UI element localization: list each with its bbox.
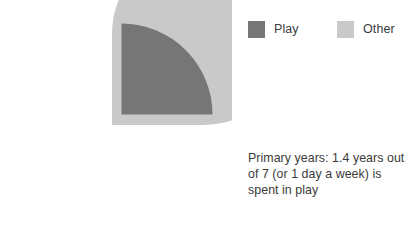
chart-canvas: Play Other Primary years: 1.4 years out … bbox=[0, 0, 414, 226]
chart-caption: Primary years: 1.4 years out of 7 (or 1 … bbox=[248, 150, 408, 199]
legend-label-play: Play bbox=[274, 21, 299, 38]
legend-swatch-other bbox=[337, 21, 354, 38]
legend-item-play[interactable]: Play bbox=[248, 20, 299, 38]
legend-swatch-play bbox=[248, 21, 265, 38]
chart-legend: Play Other bbox=[248, 20, 414, 40]
legend-label-other: Other bbox=[363, 21, 395, 38]
legend-item-other[interactable]: Other bbox=[337, 20, 395, 38]
pie-chart bbox=[0, 0, 232, 226]
